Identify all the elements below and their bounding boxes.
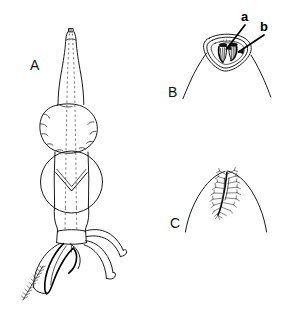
inner-structure-a xyxy=(219,43,227,62)
lobed-body-segment xyxy=(40,104,98,153)
part-label-b: b xyxy=(260,20,268,33)
panel-label-b: B xyxy=(168,85,177,99)
tubular-appendages xyxy=(84,230,127,279)
figure-canvas: A B C a b xyxy=(0,0,294,310)
bristled-filament xyxy=(21,265,45,300)
figure-artwork xyxy=(0,0,294,310)
apical-knob xyxy=(69,29,74,32)
curved-lobes xyxy=(34,243,81,293)
panel-c-artwork xyxy=(185,168,266,232)
part-label-a: a xyxy=(241,10,248,23)
panel-label-c: C xyxy=(170,216,180,230)
plumose-bristle-cluster xyxy=(210,168,241,220)
panel-label-a: A xyxy=(30,58,39,72)
apical-segment xyxy=(58,32,84,105)
circular-segment xyxy=(41,151,103,213)
panel-b-artwork xyxy=(183,25,271,99)
